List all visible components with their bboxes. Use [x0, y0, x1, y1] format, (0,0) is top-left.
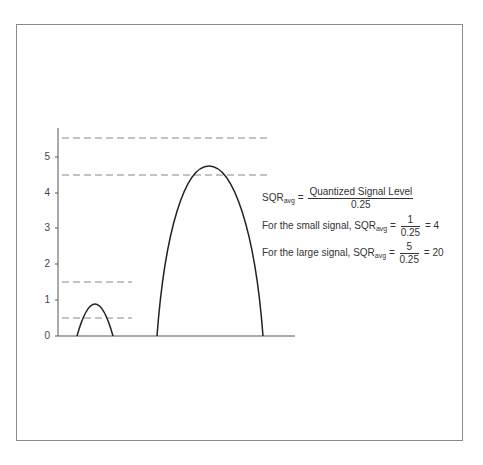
large-signal-equation: For the large signal, SQRavg = 50.25 = 2… [262, 241, 444, 266]
y-tick-0: 0 [38, 330, 50, 341]
quantization-levels [62, 138, 268, 318]
small-signal-pulse [77, 304, 113, 336]
y-tick-1: 1 [38, 294, 50, 305]
y-tick-3: 3 [38, 222, 50, 233]
small-signal-equation: For the small signal, SQRavg = 10.25 = 4 [262, 214, 439, 239]
y-tick-5: 5 [38, 151, 50, 162]
sqr-definition: SQRavg = Quantized Signal Level0.25 [262, 186, 415, 211]
y-tick-2: 2 [38, 258, 50, 269]
y-tick-4: 4 [38, 187, 50, 198]
large-signal-pulse [157, 166, 263, 336]
